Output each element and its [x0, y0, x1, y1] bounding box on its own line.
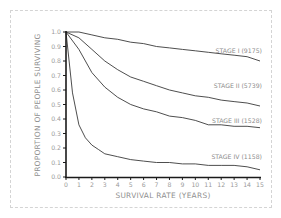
y-tick-label: 0.4	[51, 115, 61, 122]
y-tick-label: 0.9	[51, 43, 61, 50]
y-tick-label: 0.5	[51, 101, 61, 108]
y-tick-label: 0.3	[51, 130, 61, 137]
series-label-stage-4: STAGE IV (1158)	[211, 153, 262, 160]
y-tick-label: 0.6	[51, 86, 61, 93]
x-tick-label: 9	[180, 181, 184, 188]
survival-chart: 0.00.10.20.30.40.50.60.70.80.91.0 012345…	[0, 0, 281, 218]
series-label-stage-2: STAGE II (5739)	[214, 82, 262, 89]
x-tick-label: 11	[204, 181, 212, 188]
x-tick-label: 13	[230, 181, 238, 188]
x-tick-label: 0	[64, 181, 68, 188]
y-axis-ticks: 0.00.10.20.30.40.50.60.70.80.91.0	[51, 28, 66, 180]
series-label-stage-3: STAGE III (1528)	[212, 117, 262, 124]
y-tick-label: 0.7	[51, 72, 61, 79]
x-tick-label: 14	[243, 181, 251, 188]
y-tick-label: 1.0	[51, 28, 61, 35]
x-tick-label: 8	[167, 181, 171, 188]
y-tick-label: 0.8	[51, 57, 61, 64]
y-axis-title: PROPORTION OF PEOPLE SURVIVING	[33, 33, 42, 176]
x-tick-label: 5	[129, 181, 133, 188]
x-tick-label: 6	[142, 181, 146, 188]
x-tick-label: 15	[256, 181, 264, 188]
x-tick-label: 10	[191, 181, 199, 188]
x-tick-label: 3	[103, 181, 107, 188]
series-label-stage-1: STAGE I (9175)	[216, 47, 262, 54]
series-line-stage-2	[66, 32, 260, 106]
x-axis-title: SURVIVAL RATE (YEARS)	[115, 191, 210, 200]
y-tick-label: 0.1	[51, 159, 61, 166]
series-labels: STAGE I (9175)STAGE II (5739)STAGE III (…	[211, 47, 262, 160]
y-tick-label: 0.0	[51, 173, 61, 180]
x-tick-label: 4	[116, 181, 120, 188]
x-tick-label: 1	[77, 181, 81, 188]
x-tick-label: 7	[155, 181, 159, 188]
y-tick-label: 0.2	[51, 144, 61, 151]
x-axis-ticks: 0123456789101112131415	[64, 177, 264, 188]
x-tick-label: 2	[90, 181, 94, 188]
x-tick-label: 12	[217, 181, 225, 188]
